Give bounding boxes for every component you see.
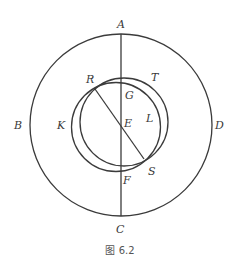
label-l: L: [145, 112, 153, 125]
label-g: G: [125, 89, 134, 102]
label-r: R: [85, 73, 94, 86]
label-a: A: [116, 18, 125, 31]
label-d: D: [214, 119, 224, 132]
label-b: B: [13, 119, 22, 132]
geometry-diagram: A B C D R T G K E L F S 图 6.2: [0, 0, 237, 262]
circle-through-k: [72, 83, 161, 172]
label-t: T: [151, 71, 160, 84]
label-e: E: [123, 117, 132, 130]
label-k: K: [56, 119, 66, 132]
figure-caption: 图 6.2: [105, 245, 134, 256]
label-f: F: [122, 174, 131, 187]
diagonal-line-rs: [95, 89, 144, 159]
label-c: C: [116, 223, 125, 236]
label-s: S: [148, 165, 156, 178]
